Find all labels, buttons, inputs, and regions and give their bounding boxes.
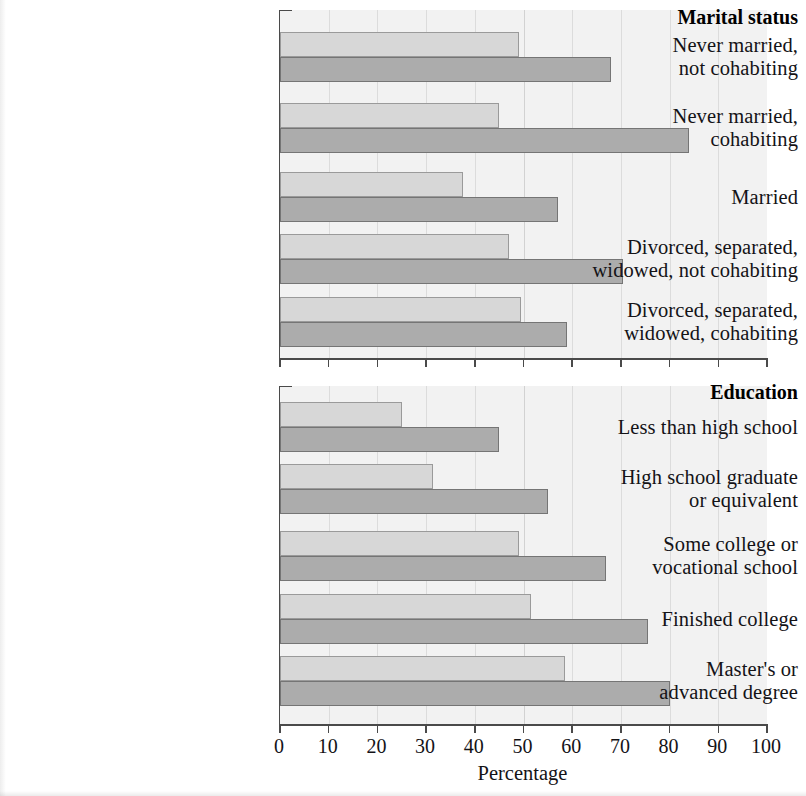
axis-tick-70	[620, 724, 622, 733]
bar-marital-2-light	[280, 172, 463, 197]
x-tick-label-0: 0	[254, 735, 304, 758]
category-label-education-0: Less than high school	[534, 416, 806, 439]
axis-tick-10	[328, 358, 330, 367]
bar-education-4-light	[280, 656, 565, 681]
axis-tick-60	[571, 358, 573, 367]
bar-education-1-light	[280, 464, 433, 489]
axis-tick-80	[669, 724, 671, 733]
page-edge-shading-bottom	[0, 791, 806, 796]
bar-marital-4-dark	[280, 322, 567, 347]
axis-tick-40	[474, 358, 476, 367]
x-axis-title: Percentage	[279, 762, 766, 785]
category-label-marital-0: Never married,not cohabiting	[534, 34, 806, 80]
category-label-marital-1: Never married,cohabiting	[534, 105, 806, 151]
axis-tick-50	[523, 358, 525, 367]
x-tick-label-20: 20	[351, 735, 401, 758]
x-tick-label-40: 40	[449, 735, 499, 758]
x-tick-label-80: 80	[644, 735, 694, 758]
category-label-marital-2: Married	[534, 186, 806, 209]
axis-tick-0	[279, 358, 281, 367]
marital-status-title: Marital status	[534, 6, 806, 29]
bar-marital-1-light	[280, 103, 499, 128]
category-label-education-1: High school graduateor equivalent	[534, 466, 806, 512]
axis-tick-10	[328, 724, 330, 733]
category-label-education-2: Some college orvocational school	[534, 533, 806, 579]
axis-tick-100	[766, 358, 768, 367]
bar-chart-figure: Marital status Never married,not cohabit…	[0, 0, 806, 796]
bar-education-2-light	[280, 531, 519, 556]
category-label-education-4: Master's oradvanced degree	[534, 658, 806, 704]
axis-tick-30	[425, 358, 427, 367]
bar-education-3-light	[280, 594, 531, 619]
axis-tick-50	[523, 724, 525, 733]
bar-marital-0-light	[280, 32, 519, 57]
category-label-marital-3: Divorced, separated,widowed, not cohabit…	[534, 236, 806, 282]
axis-tick-30	[425, 724, 427, 733]
axis-tick-90	[718, 724, 720, 733]
x-tick-label-70: 70	[595, 735, 645, 758]
bar-marital-3-light	[280, 234, 509, 259]
x-tick-label-50: 50	[498, 735, 548, 758]
bar-marital-4-light	[280, 297, 521, 322]
axis-tick-0	[279, 724, 281, 733]
education-corner-bracket	[279, 386, 292, 397]
bar-education-0-light	[280, 402, 402, 427]
x-tick-label-10: 10	[303, 735, 353, 758]
marital-corner-bracket	[279, 10, 292, 21]
page-edge-shading-left	[0, 0, 6, 796]
bar-marital-2-dark	[280, 197, 558, 222]
axis-tick-70	[620, 358, 622, 367]
axis-tick-20	[377, 358, 379, 367]
education-title: Education	[534, 381, 806, 404]
category-label-marital-4: Divorced, separated,widowed, cohabiting	[534, 299, 806, 345]
axis-tick-20	[377, 724, 379, 733]
axis-tick-90	[718, 358, 720, 367]
x-tick-label-30: 30	[400, 735, 450, 758]
axis-tick-80	[669, 358, 671, 367]
axis-tick-40	[474, 724, 476, 733]
x-tick-label-90: 90	[692, 735, 742, 758]
category-label-education-3: Finished college	[534, 608, 806, 631]
x-tick-label-100: 100	[741, 735, 791, 758]
bar-education-0-dark	[280, 427, 499, 452]
bar-education-1-dark	[280, 489, 548, 514]
axis-tick-60	[571, 724, 573, 733]
x-tick-label-60: 60	[546, 735, 596, 758]
axis-tick-100	[766, 724, 768, 733]
